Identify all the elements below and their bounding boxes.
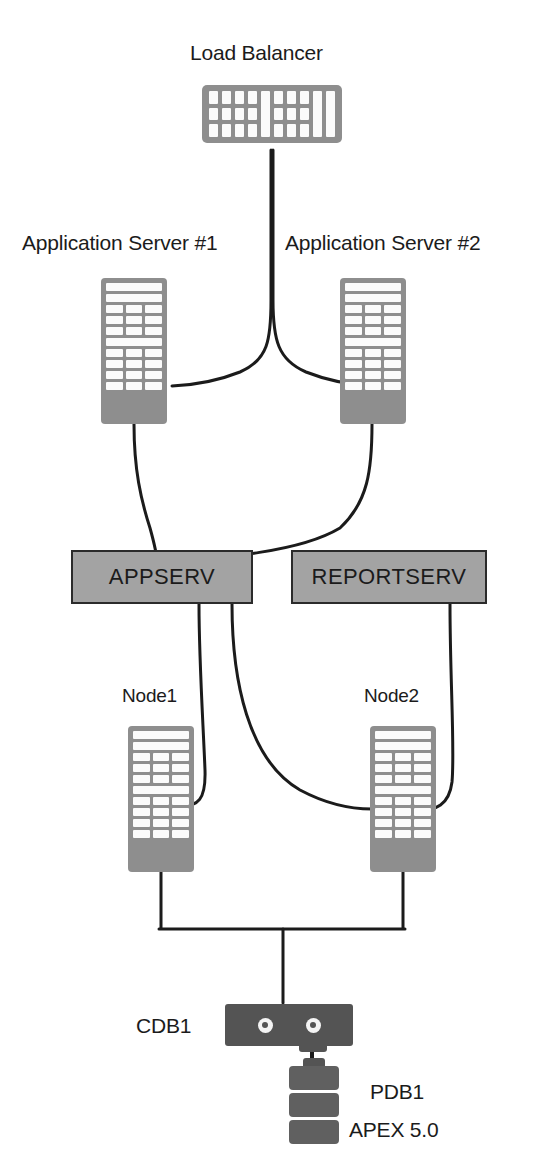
pdb-block [289, 1093, 339, 1117]
tower-grid [345, 349, 401, 390]
cdb1-label: CDB1 [136, 1015, 191, 1036]
tower-bar [375, 786, 431, 794]
node1-label: Node1 [122, 686, 177, 705]
tower-bar [133, 731, 189, 739]
pdb-block [289, 1066, 339, 1090]
link-appserv-node2 [232, 604, 372, 809]
lb-tall-bar [326, 91, 335, 137]
tower-bar [375, 731, 431, 739]
lb-col [274, 91, 283, 137]
app-server-1-icon [101, 278, 167, 424]
pdb-block [289, 1120, 339, 1144]
lb-col [287, 91, 296, 137]
tower-bar [345, 294, 401, 302]
tower-grid [375, 753, 431, 783]
app-server-2-label: Application Server #2 [285, 232, 480, 253]
appserv-box[interactable]: APPSERV [71, 550, 253, 604]
apex-version-label: APEX 5.0 [349, 1119, 438, 1140]
lb-col [235, 91, 244, 137]
node1-icon [128, 726, 194, 872]
lb-col [300, 91, 309, 137]
cdb-indicator-icon [306, 1018, 321, 1033]
lb-col [209, 91, 218, 137]
tower-bar [106, 294, 162, 302]
reportserv-box[interactable]: REPORTSERV [291, 550, 487, 604]
app-server-1-label: Application Server #1 [22, 232, 217, 253]
node2-label: Node2 [364, 686, 419, 705]
tower-grid [106, 349, 162, 390]
tower-bar [345, 283, 401, 291]
load-balancer-label: Load Balancer [190, 42, 323, 63]
pdb1-label: PDB1 [370, 1081, 424, 1102]
lb-tall-bar [313, 91, 322, 137]
lb-col [248, 91, 257, 137]
tower-grid [133, 753, 189, 783]
tower-grid [345, 305, 401, 335]
tower-bar [133, 742, 189, 750]
cdb1-icon [225, 1004, 353, 1046]
tower-bar [133, 786, 189, 794]
tower-grid [133, 797, 189, 838]
node2-icon [370, 726, 436, 872]
load-balancer-icon [202, 85, 342, 143]
tower-grid [106, 305, 162, 335]
tower-grid [375, 797, 431, 838]
link-appserver2-appserv [161, 424, 372, 561]
app-server-2-icon [340, 278, 406, 424]
lb-col [222, 91, 231, 137]
architecture-diagram: Load Balancer Application Server #1 Appl… [0, 0, 535, 1176]
cdb-indicator-icon [258, 1018, 273, 1033]
link-appserver1-appserv [134, 424, 157, 562]
lb-tall-bar [261, 91, 270, 137]
tower-bar [375, 742, 431, 750]
tower-bar [106, 338, 162, 346]
tower-bar [106, 283, 162, 291]
link-loadbalancer-appserver1 [172, 150, 271, 386]
cdb1-foot [299, 1044, 327, 1052]
pdb1-icon [289, 1066, 339, 1144]
tower-bar [345, 338, 401, 346]
